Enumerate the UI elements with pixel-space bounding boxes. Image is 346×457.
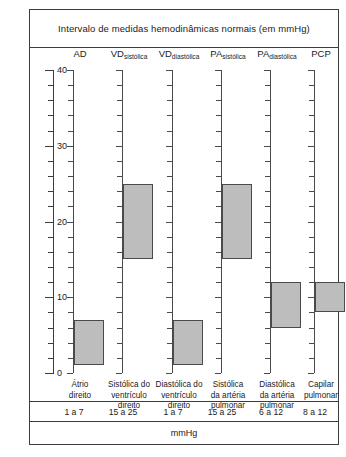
column-tick-minor xyxy=(265,282,270,283)
column-tick-major xyxy=(166,70,172,71)
column-tick-major xyxy=(116,297,122,298)
range-bar xyxy=(123,184,153,260)
column-tick-minor xyxy=(216,358,221,359)
column-tick-minor xyxy=(117,328,122,329)
y-axis-label: 30 xyxy=(57,141,67,150)
column-tick-minor xyxy=(68,131,73,132)
column-tick-minor xyxy=(265,131,270,132)
column-tick-minor xyxy=(309,252,314,253)
column-tick-major xyxy=(215,297,221,298)
column-tick-minor xyxy=(167,161,172,162)
column-tick-minor xyxy=(167,358,172,359)
column-tick-minor xyxy=(117,358,122,359)
column-tick-minor xyxy=(216,131,221,132)
y-axis-tick-minor xyxy=(48,252,54,253)
column-tick-minor xyxy=(265,343,270,344)
column-tick-major xyxy=(264,146,270,147)
column-tick-major xyxy=(308,70,314,71)
column-tick-minor xyxy=(309,358,314,359)
column-tick-major xyxy=(308,222,314,223)
column-tick-major xyxy=(308,373,314,374)
column-tick-major xyxy=(166,373,172,374)
column-tick-minor xyxy=(117,85,122,86)
column-tick-minor xyxy=(309,343,314,344)
column-tick-minor xyxy=(216,343,221,344)
range-bar xyxy=(173,320,203,365)
column-tick-minor xyxy=(309,282,314,283)
column-tick-minor xyxy=(68,267,73,268)
column-tick-minor xyxy=(117,191,122,192)
column-tick-minor xyxy=(216,267,221,268)
column-tick-minor xyxy=(167,328,172,329)
column-tick-minor xyxy=(265,267,270,268)
y-axis-tick-minor xyxy=(48,282,54,283)
y-axis-tick-minor xyxy=(48,161,54,162)
column-header-main: VD xyxy=(111,48,124,59)
column-tick-major xyxy=(116,373,122,374)
column-tick-minor xyxy=(265,176,270,177)
y-axis-label: 0 xyxy=(57,369,62,378)
column-tick-minor xyxy=(309,191,314,192)
column-tick-minor xyxy=(216,85,221,86)
y-axis-tick-minor xyxy=(48,176,54,177)
column-tick-minor xyxy=(167,282,172,283)
y-axis-tick-minor xyxy=(48,191,54,192)
column-tick-major xyxy=(67,70,73,71)
y-axis-tick-minor xyxy=(48,131,54,132)
column-tick-minor xyxy=(265,206,270,207)
column-tick-minor xyxy=(265,312,270,313)
column-tick-minor xyxy=(216,328,221,329)
column-ruler xyxy=(314,70,315,373)
column-tick-minor xyxy=(216,252,221,253)
y-axis-tick-major xyxy=(45,70,54,71)
y-axis-tick-major xyxy=(45,222,54,223)
range-bar xyxy=(222,184,252,260)
column-tick-minor xyxy=(68,312,73,313)
column-tick-minor xyxy=(265,358,270,359)
column-tick-major xyxy=(116,222,122,223)
y-axis-tick-minor xyxy=(48,237,54,238)
column-tick-minor xyxy=(216,191,221,192)
column-tick-minor xyxy=(216,312,221,313)
column-tick-major xyxy=(67,373,73,374)
column-tick-minor xyxy=(309,115,314,116)
column-tick-major xyxy=(264,373,270,374)
column-tick-minor xyxy=(68,191,73,192)
column-tick-minor xyxy=(265,328,270,329)
column-header-main: PA xyxy=(210,48,222,59)
range-bar xyxy=(315,282,345,312)
value-range-cell: 8 a 12 xyxy=(280,402,346,421)
column-tick-minor xyxy=(167,115,172,116)
y-axis-tick-minor xyxy=(48,85,54,86)
column-tick-minor xyxy=(309,267,314,268)
column-tick-major xyxy=(308,297,314,298)
column-tick-minor xyxy=(117,312,122,313)
column-tick-major xyxy=(116,146,122,147)
x-axis-title: mmHg xyxy=(30,422,338,444)
column-tick-minor xyxy=(216,237,221,238)
y-axis-tick-major xyxy=(45,373,54,374)
column-description-line: pulmonar xyxy=(283,391,346,402)
column-tick-minor xyxy=(216,282,221,283)
column-tick-minor xyxy=(309,237,314,238)
y-axis-tick-minor xyxy=(48,115,54,116)
column-description: Capilarpulmonar xyxy=(283,380,346,401)
column-tick-minor xyxy=(167,252,172,253)
column-tick-major xyxy=(67,297,73,298)
column-tick-minor xyxy=(265,191,270,192)
column-tick-minor xyxy=(117,252,122,253)
column-tick-minor xyxy=(216,161,221,162)
range-bar xyxy=(74,320,104,365)
column-tick-minor xyxy=(265,100,270,101)
column-tick-minor xyxy=(68,161,73,162)
column-header-main: AD xyxy=(73,48,86,59)
column-ruler xyxy=(270,70,271,373)
column-tick-minor xyxy=(68,252,73,253)
column-tick-major xyxy=(215,222,221,223)
column-tick-minor xyxy=(117,206,122,207)
column-tick-minor xyxy=(216,206,221,207)
column-header: PCP xyxy=(282,48,346,59)
column-tick-minor xyxy=(265,252,270,253)
column-tick-minor xyxy=(167,237,172,238)
column-tick-minor xyxy=(167,267,172,268)
